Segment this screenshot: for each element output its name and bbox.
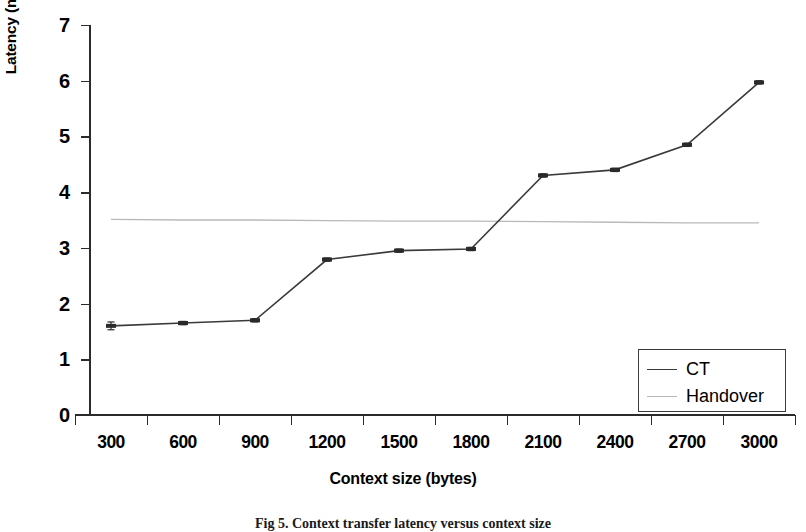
data-point-1200 [322, 258, 332, 262]
data-point-1800 [466, 247, 476, 251]
legend-swatch-ct [647, 369, 677, 370]
legend-item-handover: Handover [647, 382, 785, 409]
data-point-900 [250, 318, 260, 322]
x-tick-boundary-10 [795, 415, 796, 425]
figure-latency-vs-context-size: Latency (miliseconds) 01234567 300600900… [0, 0, 806, 532]
x-tick-boundary-0 [75, 415, 76, 425]
data-point-2400 [610, 168, 620, 172]
series-line-ct [111, 82, 759, 325]
y-tick-label-4: 4 [59, 182, 70, 202]
data-point-2700 [682, 143, 692, 147]
y-tick-label-1: 1 [59, 349, 70, 369]
y-tick-label-6: 6 [59, 71, 70, 91]
x-tick-boundary-5 [435, 415, 436, 425]
legend-label-handover: Handover [686, 387, 764, 405]
x-tick-label-2100: 2100 [525, 432, 562, 453]
data-point-300 [106, 324, 116, 328]
legend-item-ct: CT [647, 355, 785, 382]
data-point-600 [178, 321, 188, 325]
x-tick-label-300: 300 [97, 432, 125, 453]
x-tick-label-1500: 1500 [381, 432, 418, 453]
series-line-handover [111, 219, 759, 222]
legend-label-ct: CT [686, 360, 710, 378]
y-tick-label-5: 5 [59, 126, 70, 146]
chart-legend: CT Handover [638, 349, 786, 412]
y-tick-label-3: 3 [59, 238, 70, 258]
y-tick-0 [81, 415, 90, 416]
x-axis-tick-labels: 3006009001200150018002100240027003000 [0, 432, 806, 460]
x-tick-label-1200: 1200 [309, 432, 346, 453]
x-tick-label-600: 600 [169, 432, 197, 453]
x-tick-boundary-2 [219, 415, 220, 425]
x-tick-boundary-3 [291, 415, 292, 425]
x-tick-boundary-4 [363, 415, 364, 425]
x-tick-label-2400: 2400 [597, 432, 634, 453]
legend-swatch-handover [647, 396, 677, 397]
x-tick-label-3000: 3000 [741, 432, 778, 453]
x-tick-boundary-9 [723, 415, 724, 425]
x-tick-boundary-6 [507, 415, 508, 425]
data-point-1500 [394, 249, 404, 253]
x-tick-label-900: 900 [241, 432, 269, 453]
x-tick-label-1800: 1800 [453, 432, 490, 453]
x-tick-boundary-7 [579, 415, 580, 425]
data-point-3000 [754, 80, 764, 84]
x-tick-boundary-1 [147, 415, 148, 425]
data-point-2100 [538, 173, 548, 177]
x-axis-title: Context size (bytes) [0, 470, 806, 488]
y-tick-label-7: 7 [59, 15, 70, 35]
y-tick-label-0: 0 [59, 405, 70, 425]
x-tick-label-2700: 2700 [669, 432, 706, 453]
y-tick-label-2: 2 [59, 294, 70, 314]
figure-caption: Fig 5. Context transfer latency versus c… [0, 516, 806, 532]
x-tick-boundary-8 [651, 415, 652, 425]
